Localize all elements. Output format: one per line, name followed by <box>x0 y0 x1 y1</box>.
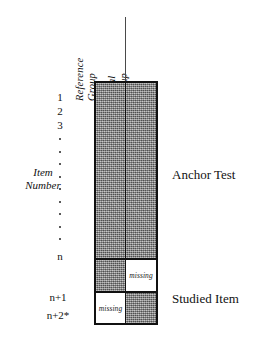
axis-label-item-number-line1: Item <box>12 166 74 179</box>
ellipsis-dot <box>59 226 61 228</box>
ellipsis-dot <box>59 201 61 203</box>
ellipsis-dot <box>59 138 61 140</box>
column-divider-rule <box>125 17 126 81</box>
cell-n-plus-1-reference <box>96 260 126 291</box>
cell-anchor-focal <box>126 83 156 258</box>
section-caption-studied-item: Studied Item <box>172 292 239 306</box>
missing-label: missing <box>99 304 123 313</box>
item-number-tick-1: 1 <box>36 92 84 103</box>
ellipsis-dot <box>59 213 61 215</box>
axis-label-item-number-line2: Number <box>12 179 74 192</box>
cell-n-plus-2-reference: missing <box>96 293 126 323</box>
ellipsis-dot <box>59 238 61 240</box>
figure-anchor-test-diagram: Reference Group Focal Group 1 2 3 n n+1 … <box>0 0 267 337</box>
cell-n-plus-2-focal <box>126 293 156 323</box>
cell-anchor-reference <box>96 83 126 258</box>
item-number-tick-n-plus-1: n+1 <box>30 292 86 303</box>
item-number-tick-n-plus-2: n+2* <box>30 310 86 321</box>
cell-n-plus-1-focal: missing <box>126 260 156 291</box>
item-number-tick-2: 2 <box>36 106 84 117</box>
item-number-ellipsis-dots <box>36 138 84 251</box>
table-row-anchor-block <box>96 83 156 258</box>
table-row-n-plus-1: missing <box>96 258 156 291</box>
missing-label: missing <box>129 271 153 280</box>
item-number-tick-3: 3 <box>36 120 84 131</box>
data-matrix: missing missing <box>94 81 158 325</box>
ellipsis-dot <box>59 151 61 153</box>
table-row-n-plus-2: missing <box>96 291 156 323</box>
axis-label-item-number: Item Number <box>12 166 74 192</box>
ellipsis-dot <box>59 163 61 165</box>
section-caption-anchor-test: Anchor Test <box>172 168 235 182</box>
item-number-tick-n: n <box>36 251 84 262</box>
